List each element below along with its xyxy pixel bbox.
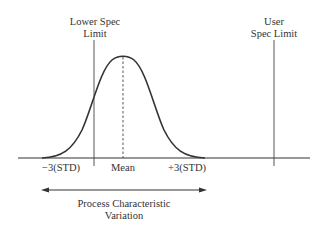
lower-spec-limit-label: Lower Spec Limit [60, 16, 130, 40]
arrow-left-head-icon [41, 188, 49, 193]
arrow-right-head-icon [199, 188, 207, 193]
lower-spec-limit-label-line1: Lower Spec [60, 16, 130, 28]
user-spec-limit-label-line2: Spec Limit [239, 28, 309, 40]
process-variation-label-line1: Process Characteristic [64, 198, 184, 210]
lower-spec-limit-label-line2: Limit [60, 28, 130, 40]
minus-3std-label: −3(STD) [36, 162, 86, 174]
normal-distribution-curve [42, 56, 205, 158]
plus-3std-label: +3(STD) [162, 162, 212, 174]
user-spec-limit-label: User Spec Limit [239, 16, 309, 40]
process-variation-label-line2: Variation [64, 210, 184, 222]
mean-label: Mean [103, 162, 143, 174]
user-spec-limit-label-line1: User [239, 16, 309, 28]
process-variation-label: Process Characteristic Variation [64, 198, 184, 222]
